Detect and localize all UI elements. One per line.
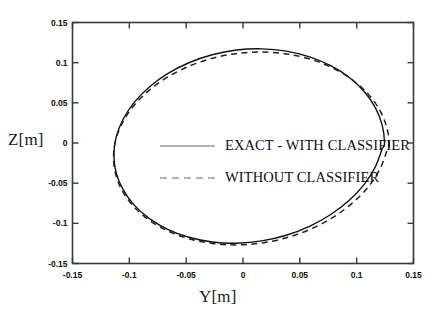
y-tick-label: -0.1 — [53, 218, 68, 228]
x-tick-label: 0.05 — [280, 270, 320, 280]
legend-label-exact-with-classifier: EXACT - WITH CLASSIFIER — [225, 137, 410, 154]
legend-label-without-classifier: WITHOUT CLASSIFIER — [225, 169, 379, 186]
y-tick-label: -0.15 — [48, 259, 67, 269]
x-axis-title: Y[m] — [199, 287, 237, 307]
y-tick-label: 0.1 — [56, 58, 68, 68]
chart-figure: Z[m] Y[m] 0.150.10.050-0.05-0.1-0.15 -0.… — [0, 0, 442, 317]
y-axis-title: Z[m] — [8, 130, 44, 150]
y-tick-label: -0.05 — [48, 178, 67, 188]
x-tick-label: 0.1 — [337, 270, 377, 280]
x-tick-label: 0.15 — [394, 270, 434, 280]
y-tick-label: 0 — [63, 138, 68, 148]
y-tick-label: 0.15 — [51, 18, 68, 28]
x-tick-label: -0.05 — [166, 270, 206, 280]
x-tick-label: -0.15 — [53, 270, 93, 280]
y-tick-label: 0.05 — [51, 98, 68, 108]
x-tick-label: -0.1 — [109, 270, 149, 280]
x-tick-label: 0 — [223, 270, 263, 280]
